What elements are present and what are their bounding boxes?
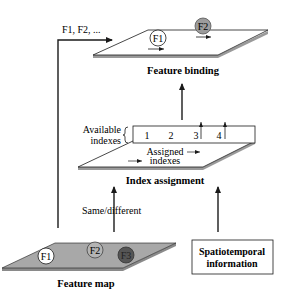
index-4: 4 <box>217 130 222 141</box>
brace-icon <box>123 127 128 143</box>
available-label-line2: indexes <box>90 135 121 146</box>
feature-binding-diagram: F1 F2 Feature binding F1, F2, ... 1 2 3 … <box>0 0 290 302</box>
map-feature-f2: F2 <box>87 242 103 258</box>
feature-map-label: Feature map <box>57 278 114 289</box>
feature-binding-plane <box>93 30 268 58</box>
map-feature-f3: F3 <box>118 247 134 263</box>
index-2: 2 <box>169 130 174 141</box>
svg-text:F3: F3 <box>121 250 132 261</box>
assigned-label-line2: indexes <box>150 155 181 166</box>
feature-list-label: F1, F2, ... <box>62 24 101 35</box>
index-assignment-label: Index assignment <box>126 175 205 186</box>
available-label-line1: Available <box>83 124 122 135</box>
available-indexes-box: 1 2 3 4 <box>133 122 255 143</box>
svg-text:F1: F1 <box>153 33 164 44</box>
map-feature-f1: F1 <box>38 248 54 264</box>
svg-text:information: information <box>206 258 258 269</box>
same-different-label: Same/different <box>82 205 141 216</box>
svg-text:F1: F1 <box>41 251 52 262</box>
spatiotemporal-box: Spatiotemporal information <box>192 240 273 274</box>
svg-text:Spatiotemporal: Spatiotemporal <box>199 246 265 257</box>
svg-text:F2: F2 <box>90 245 101 256</box>
feature-binding-label: Feature binding <box>147 65 220 76</box>
index-1: 1 <box>145 130 150 141</box>
svg-text:F2: F2 <box>198 21 209 32</box>
index-3: 3 <box>194 130 199 141</box>
